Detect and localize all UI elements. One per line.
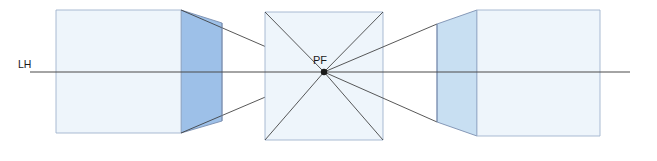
horizon-line-label: LH (18, 58, 31, 70)
perspective-diagram-canvas: LH PF Ilustrações: Banco de imagens/Arqu… (0, 0, 657, 161)
vanishing-point-dot (321, 69, 327, 75)
center-box-front-face (265, 12, 383, 140)
perspective-diagram-svg: LH PF (0, 0, 657, 161)
vanishing-point-label: PF (313, 54, 327, 66)
right-box-side-face (437, 10, 477, 136)
right-box-front-face (477, 10, 600, 136)
